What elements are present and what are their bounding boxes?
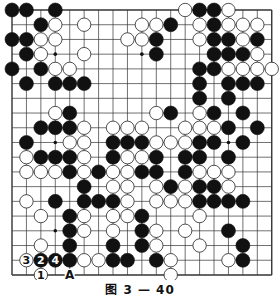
white-stone [34,33,47,46]
black-stone [19,47,33,61]
black-stone [135,135,149,149]
black-stone [120,253,134,267]
white-stone [106,209,119,222]
black-stone [63,165,77,179]
black-stone [106,135,120,149]
black-stone [63,77,77,91]
black-stone [48,150,62,164]
black-stone [34,150,48,164]
black-stone [63,209,77,223]
white-stone [150,224,163,237]
black-stone [63,150,77,164]
black-stone [63,239,77,253]
white-stone [222,18,235,31]
black-stone [207,62,221,76]
black-stone [34,18,48,32]
black-stone [48,121,62,135]
black-stone [221,150,235,164]
white-stone [236,33,249,46]
white-stone [222,62,235,75]
white-stone [193,18,206,31]
black-stone [34,121,48,135]
white-stone [178,3,191,16]
white-stone [193,209,206,222]
white-stone [164,254,177,267]
white-stone [77,224,90,237]
white-stone [135,18,148,31]
black-stone [120,135,134,149]
white-stone [77,151,90,164]
black-stone [207,18,221,32]
white-stone [150,106,163,119]
black-stone [149,253,163,267]
black-stone [236,135,250,149]
numbered-stone-3: 3 [20,254,33,268]
black-stone [236,77,250,91]
black-stone [19,77,33,91]
black-stone [221,224,235,238]
black-stone [164,106,178,120]
white-stone [207,165,220,178]
white-stone [106,165,119,178]
black-stone [207,194,221,208]
black-stone [207,106,221,120]
star-point [140,52,144,56]
black-stone [250,32,264,46]
black-stone [5,3,19,17]
move-number: 4 [51,254,59,267]
black-stone [236,253,250,267]
figure-caption: 图 3 — 40 [0,280,280,297]
white-stone [49,33,62,46]
move-number: 3 [23,254,31,267]
black-stone [236,106,250,120]
black-stone [164,18,178,32]
black-stone [207,135,221,149]
white-stone [20,151,33,164]
white-stone [77,121,90,134]
white-stone [236,62,249,75]
black-stone [236,239,250,253]
star-point [53,229,57,233]
white-stone [63,62,76,75]
black-stone [63,106,77,120]
black-stone [207,32,221,46]
black-stone [221,47,235,61]
black-stone [5,62,19,76]
numbered-stone-1: 1 [34,268,47,280]
black-stone [63,224,77,238]
move-number: 2 [37,254,45,267]
black-stone [236,47,250,61]
white-stone [193,239,206,252]
black-stone [77,180,91,194]
white-stone [164,268,177,280]
white-stone [135,121,148,134]
white-stone [92,254,105,267]
white-stone [106,180,119,193]
black-stone [221,32,235,46]
white-stone [222,254,235,267]
white-stone [121,165,134,178]
black-stone [193,62,207,76]
black-stone [193,150,207,164]
marker-label: A [65,268,75,280]
black-stone [135,224,149,238]
go-board: 1234 A [0,0,280,280]
black-stone [19,32,33,46]
black-stone [193,180,207,194]
black-stone [221,194,235,208]
black-stone [106,253,120,267]
black-stone [207,180,221,194]
white-stone [34,165,47,178]
white-stone [135,33,148,46]
white-stone [121,33,134,46]
white-stone [77,254,90,267]
star-point [53,141,57,145]
white-stone [178,195,191,208]
black-stone [19,135,33,149]
white-stone [178,224,191,237]
black-stone [77,194,91,208]
white-stone [193,165,206,178]
white-stone [178,121,191,134]
white-stone [77,209,90,222]
white-stone [251,47,264,60]
